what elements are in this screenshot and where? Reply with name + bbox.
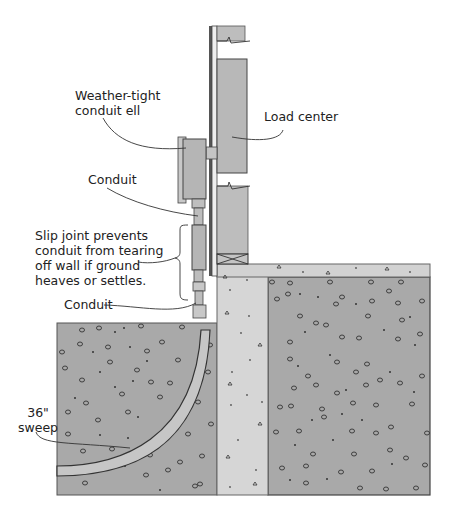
label-slip-joint: Slip joint prevents conduit from tearing… xyxy=(35,228,163,288)
floor-slab xyxy=(217,264,430,277)
leader-weather-tight xyxy=(103,118,186,149)
conduit-upper xyxy=(194,208,203,225)
label-36-sweep: 36" sweep xyxy=(18,405,58,435)
label-conduit-lower: Conduit xyxy=(64,297,113,312)
foundation-wall xyxy=(217,265,268,495)
wall-lower-stud xyxy=(217,186,248,254)
conduit-mid xyxy=(194,270,203,282)
label-weather-tight-ell: Weather-tight conduit ell xyxy=(75,88,160,118)
wall-top-stud xyxy=(217,26,245,41)
slip-joint-brace xyxy=(175,225,188,300)
conduit-coupling-mid xyxy=(193,282,205,291)
conduit-lower xyxy=(195,291,203,305)
conduit-coupling-bottom xyxy=(193,305,206,318)
conduit-coupling-top xyxy=(192,199,205,208)
conduit-ell-body xyxy=(183,139,206,199)
label-conduit-upper: Conduit xyxy=(88,172,137,187)
slip-joint xyxy=(192,225,206,270)
wall-connector xyxy=(206,147,217,159)
load-center-box xyxy=(217,59,247,173)
leader-conduit-lower xyxy=(104,303,196,309)
label-load-center: Load center xyxy=(264,109,338,124)
